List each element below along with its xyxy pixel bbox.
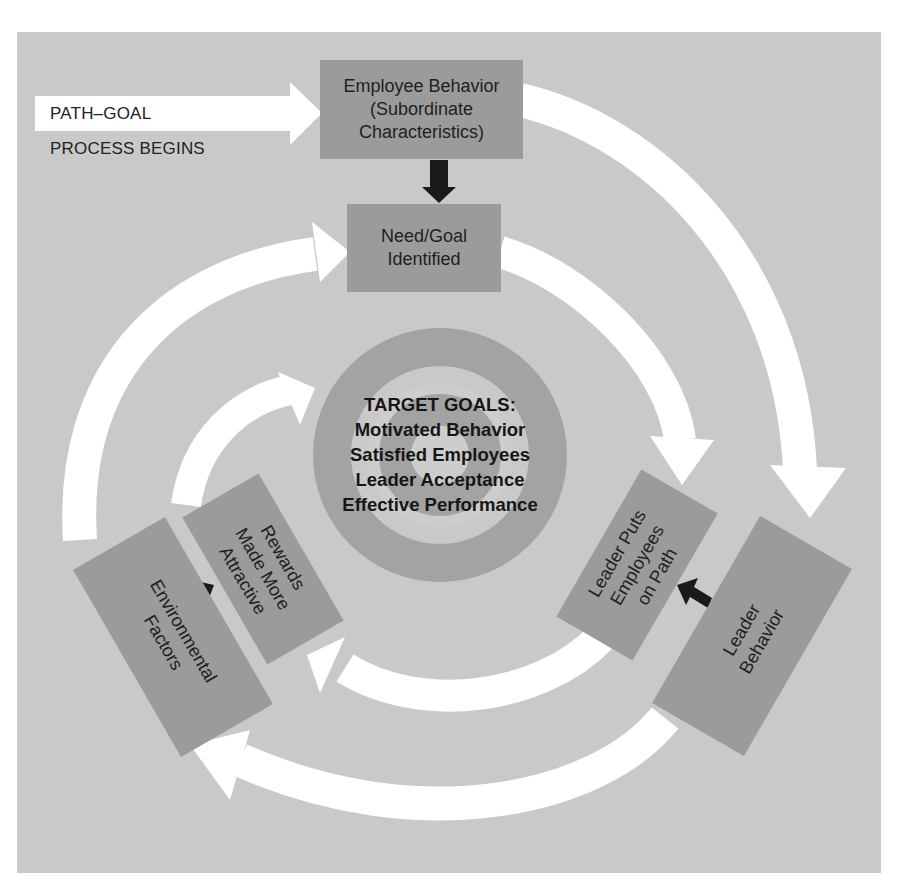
start-label-line1: PATH–GOAL (50, 104, 151, 124)
target-goal-1: Motivated Behavior (318, 417, 562, 442)
node-need-goal-line2: Identified (381, 248, 467, 271)
node-need-goal-line1: Need/Goal (381, 225, 467, 248)
target-goal-2: Satisfied Employees (318, 442, 562, 467)
node-need-goal: Need/Goal Identified (347, 204, 501, 292)
target-goals: TARGET GOALS: Motivated Behavior Satisfi… (318, 392, 562, 517)
flow-arc-environmental-to-needgoal (79, 222, 350, 540)
black-arrow-down-icon (422, 160, 456, 203)
start-label-line2: PROCESS BEGINS (50, 139, 205, 159)
target-title: TARGET GOALS: (318, 392, 562, 417)
target-goal-4: Effective Performance (318, 492, 562, 517)
node-employee-behavior: Employee Behavior (Subordinate Character… (320, 60, 523, 159)
black-arrow-leader-to-puts-icon (677, 578, 712, 608)
node-employee-behavior-line1: Employee Behavior (343, 75, 499, 98)
node-employee-behavior-line3: Characteristics) (343, 121, 499, 144)
flow-arc-leader-behavior-to-environmental (190, 718, 665, 803)
node-employee-behavior-line2: (Subordinate (343, 98, 499, 121)
target-goal-3: Leader Acceptance (318, 467, 562, 492)
flow-arc-leader-puts-to-rewards (307, 637, 600, 696)
